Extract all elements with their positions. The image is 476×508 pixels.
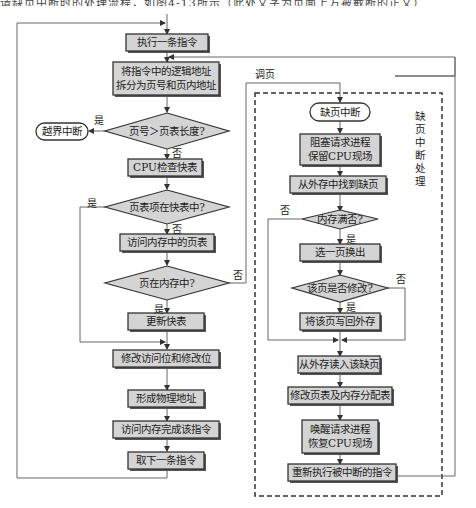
- svg-text:中: 中: [415, 136, 425, 148]
- svg-text:处: 处: [415, 162, 426, 174]
- svg-text:断: 断: [415, 149, 426, 161]
- node-select-page-out: 选一页换出: [300, 244, 382, 263]
- decision-page-number-bounds: 页号＞页表长度?: [105, 113, 229, 149]
- flowchart-canvas: 执行一条指令 将指令中的逻辑地址 拆分为页号和页内地址 页号＞页表长度? 越界中…: [0, 0, 476, 508]
- svg-text:是: 是: [87, 198, 97, 209]
- svg-text:访问内存完成该指令: 访问内存完成该指令: [121, 423, 212, 435]
- node-access-memory: 访问内存完成该指令: [113, 421, 221, 440]
- svg-text:访问内存中的页表: 访问内存中的页表: [127, 236, 208, 248]
- node-read-in-page: 从外存读入该缺页: [298, 356, 382, 375]
- svg-text:页在内存中?: 页在内存中?: [139, 277, 195, 289]
- svg-text:取下一条指令: 取下一条指令: [136, 454, 197, 466]
- svg-text:恢复CPU现场: 恢复CPU现场: [308, 437, 372, 449]
- svg-text:将该页写回外存: 将该页写回外存: [305, 315, 376, 327]
- node-cpu-check-tlb: CPU检查快表: [128, 159, 204, 178]
- svg-text:阻塞请求进程: 阻塞请求进程: [310, 136, 371, 148]
- decision-memory-full: 内存满否?: [302, 210, 378, 229]
- svg-text:缺: 缺: [415, 110, 426, 122]
- page-fault-region-label: 缺 页 中 断 处 理: [415, 110, 426, 187]
- svg-text:从外存中找到缺页: 从外存中找到缺页: [298, 178, 378, 190]
- svg-text:理: 理: [415, 175, 426, 187]
- svg-text:缺页中断: 缺页中断: [320, 106, 361, 118]
- svg-text:是: 是: [346, 302, 356, 313]
- node-fetch-next-instruction: 取下一条指令: [128, 452, 206, 471]
- svg-text:页号＞页表长度?: 页号＞页表长度?: [129, 125, 205, 137]
- main-flow-connectors: [17, 14, 455, 478]
- svg-text:页表项在快表中?: 页表项在快表中?: [129, 201, 205, 213]
- svg-text:该页是否修改?: 该页是否修改?: [307, 282, 373, 294]
- svg-text:选一页换出: 选一页换出: [315, 246, 365, 258]
- node-update-tlb: 更新快表: [128, 313, 206, 332]
- svg-text:修改页表及内存分配表: 修改页表及内存分配表: [290, 389, 391, 401]
- node-modify-access-bits: 修改访问位和修改位: [113, 350, 221, 369]
- terminal-page-fault-interrupt: 缺页中断: [310, 103, 370, 121]
- svg-text:否: 否: [172, 148, 182, 159]
- node-execute-instruction: 执行一条指令: [126, 34, 210, 53]
- svg-text:CPU检查快表: CPU检查快表: [133, 161, 198, 173]
- svg-text:页: 页: [415, 123, 425, 135]
- node-find-missing-page: 从外存中找到缺页: [290, 176, 388, 195]
- svg-text:形成物理地址: 形成物理地址: [136, 392, 197, 404]
- svg-text:否: 否: [280, 205, 290, 216]
- svg-text:修改访问位和修改位: 修改访问位和修改位: [121, 352, 212, 364]
- svg-text:内存满否?: 内存满否?: [317, 213, 363, 225]
- svg-text:调页: 调页: [255, 69, 275, 80]
- svg-text:拆分为页号和页内地址: 拆分为页号和页内地址: [116, 79, 217, 91]
- decision-page-modified: 该页是否修改?: [292, 275, 388, 302]
- svg-text:从外存读入该缺页: 从外存读入该缺页: [299, 358, 379, 370]
- svg-text:是: 是: [154, 304, 164, 315]
- node-wake-process: 唤醒请求进程 恢复CPU现场: [302, 420, 380, 455]
- svg-text:唤醒请求进程: 唤醒请求进程: [310, 423, 371, 435]
- node-re-execute-instruction: 重新执行被中断的指令: [288, 464, 398, 483]
- node-block-process: 阻塞请求进程 保留CPU现场: [300, 134, 382, 167]
- svg-text:重新执行被中断的指令: 重新执行被中断的指令: [292, 466, 393, 478]
- decision-page-in-memory: 页在内存中?: [105, 266, 229, 300]
- svg-text:越界中断: 越界中断: [42, 125, 83, 137]
- svg-text:更新快表: 更新快表: [146, 315, 187, 327]
- node-access-page-table: 访问内存中的页表: [120, 234, 216, 253]
- svg-text:是: 是: [94, 115, 104, 126]
- svg-text:将指令中的逻辑地址: 将指令中的逻辑地址: [121, 65, 212, 77]
- svg-text:保留CPU现场: 保留CPU现场: [308, 150, 372, 162]
- svg-text:否: 否: [233, 270, 243, 281]
- svg-text:否: 否: [396, 274, 406, 285]
- node-write-back: 将该页写回外存: [300, 313, 382, 332]
- svg-text:否: 否: [172, 224, 182, 235]
- decision-entry-in-tlb: 页表项在快表中?: [105, 190, 229, 224]
- terminal-out-of-bounds-interrupt: 越界中断: [36, 123, 88, 140]
- node-modify-tables: 修改页表及内存分配表: [288, 387, 394, 406]
- svg-text:是: 是: [346, 234, 356, 245]
- node-form-physical-address: 形成物理地址: [128, 390, 206, 409]
- svg-text:执行一条指令: 执行一条指令: [137, 36, 198, 48]
- node-split-address: 将指令中的逻辑地址 拆分为页号和页内地址: [113, 62, 221, 97]
